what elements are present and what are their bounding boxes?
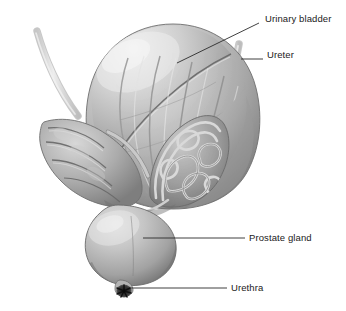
ureter-left [36, 31, 78, 116]
label-prostate-gland: Prostate gland [249, 233, 312, 243]
prostate-gland [84, 204, 176, 296]
label-urinary-bladder: Urinary bladder [265, 14, 331, 24]
urethral-orifice [116, 285, 131, 298]
illustration-canvas: Urinary bladder Ureter Prostate gland Ur… [0, 0, 346, 311]
label-urethra: Urethra [231, 283, 263, 293]
label-ureter: Ureter [267, 50, 294, 60]
anatomy-figure [0, 0, 346, 311]
